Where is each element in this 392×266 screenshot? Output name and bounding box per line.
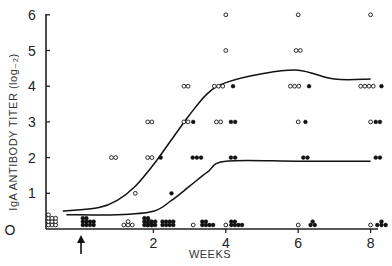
y-tick-label: 2 <box>28 150 36 166</box>
x-ticks: 2468 <box>150 229 375 251</box>
open-circle-point <box>363 84 367 88</box>
filled-circle-point <box>171 220 175 224</box>
x-axis-title: WEEKS <box>189 248 231 260</box>
open-circle-point <box>182 84 186 88</box>
y-axis-title: IgA ANTIBODY TITER (log₋₂) <box>7 53 19 210</box>
y-tick-label: 3 <box>28 114 36 130</box>
open-circle-point <box>186 84 190 88</box>
open-circle-point <box>191 223 195 227</box>
filled-circle-point <box>380 84 384 88</box>
y-tick-label: O <box>5 222 16 238</box>
y-tick-label: 5 <box>28 43 36 59</box>
filled-circle-point <box>211 223 215 227</box>
open-circle-point <box>54 216 58 220</box>
filled-circle-point <box>380 220 384 224</box>
open-circle-point <box>133 191 137 195</box>
open-circle-point <box>219 120 223 124</box>
open-circle-point <box>130 223 134 227</box>
filled-circle-point <box>142 216 146 220</box>
filled-circle-point <box>378 156 382 160</box>
filled-circle-point <box>191 120 195 124</box>
open-circle-point <box>217 84 221 88</box>
filled-circle-point <box>229 220 233 224</box>
filled-circle-point <box>231 84 235 88</box>
open-circle-point <box>150 120 154 124</box>
filled-circle-point <box>374 156 378 160</box>
filled-circle-point <box>88 220 92 224</box>
filled-circle-point <box>229 120 233 124</box>
open-circle-point <box>294 49 298 53</box>
data-points <box>47 13 388 227</box>
filled-circle-point <box>307 84 311 88</box>
open-circle-point <box>359 84 363 88</box>
filled-circle-point <box>309 223 313 227</box>
x-tick-label: 2 <box>150 235 158 251</box>
open-circle-point <box>221 84 225 88</box>
open-circle-point <box>296 223 300 227</box>
filled-circle-point <box>161 220 165 224</box>
open-circle-point <box>186 120 190 124</box>
open-circle-point <box>367 84 371 88</box>
filled-circle-point <box>92 220 96 224</box>
filled-circle-point <box>150 220 154 224</box>
filled-circle-point <box>233 120 237 124</box>
filled-circle-point <box>199 156 203 160</box>
axes <box>46 14 378 229</box>
open-circle-point <box>146 156 150 160</box>
open-circle-point <box>215 120 219 124</box>
antibody-titer-chart: O123456 2468 WEEKS IgA ANTIBODY TITER (l… <box>0 0 392 266</box>
open-circle-point <box>126 220 130 224</box>
filled-circle-point <box>200 220 204 224</box>
open-circle-point <box>212 84 216 88</box>
open-circle-point <box>371 84 375 88</box>
open-circle-point <box>369 223 373 227</box>
filled-circle-point <box>168 220 172 224</box>
filled-circle-point <box>374 120 378 124</box>
filled-circle-point <box>233 220 237 224</box>
x-tick-label: 8 <box>367 235 375 251</box>
open-circle-point <box>146 120 150 124</box>
open-circle-point <box>369 13 373 17</box>
fit-curve <box>67 160 371 215</box>
immunization-arrow-icon <box>77 235 85 254</box>
filled-circle-point <box>384 223 388 227</box>
y-tick-label: 1 <box>28 185 36 201</box>
filled-circle-point <box>208 223 212 227</box>
open-circle-point <box>296 13 300 17</box>
filled-circle-point <box>164 220 168 224</box>
open-circle-point <box>296 120 300 124</box>
filled-circle-point <box>233 156 237 160</box>
open-circle-point <box>297 84 301 88</box>
filled-circle-point <box>191 156 195 160</box>
open-circle-point <box>110 156 114 160</box>
fit-curves <box>63 70 371 215</box>
open-circle-point <box>114 156 118 160</box>
filled-circle-point <box>240 223 244 227</box>
filled-circle-point <box>311 220 315 224</box>
open-circle-point <box>298 49 302 53</box>
filled-circle-point <box>306 156 310 160</box>
open-circle-point <box>47 213 51 217</box>
filled-circle-point <box>146 216 150 220</box>
y-tick-label: 4 <box>28 78 36 94</box>
x-tick-label: 6 <box>294 235 302 251</box>
filled-circle-point <box>313 223 317 227</box>
filled-circle-point <box>204 220 208 224</box>
open-circle-point <box>224 223 228 227</box>
filled-circle-point <box>85 216 89 220</box>
filled-circle-point <box>378 120 382 124</box>
filled-circle-point <box>375 223 379 227</box>
filled-circle-point <box>81 216 85 220</box>
open-circle-point <box>122 223 126 227</box>
open-circle-point <box>288 84 292 88</box>
open-circle-point <box>150 156 154 160</box>
filled-circle-point <box>237 223 241 227</box>
filled-circle-point <box>195 156 199 160</box>
filled-circle-point <box>159 156 163 160</box>
fit-curve <box>63 70 371 211</box>
filled-circle-point <box>170 191 174 195</box>
filled-circle-point <box>153 220 157 224</box>
open-circle-point <box>182 120 186 124</box>
open-circle-point <box>293 84 297 88</box>
open-circle-point <box>224 13 228 17</box>
